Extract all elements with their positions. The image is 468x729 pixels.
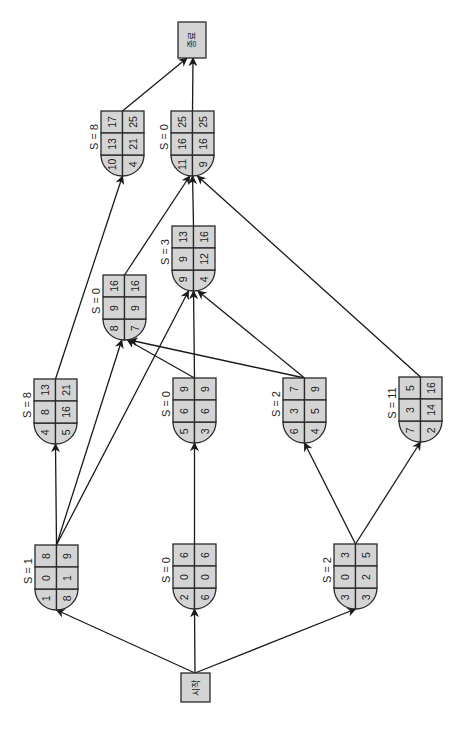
activity-node-g: 73521416S = 11	[386, 377, 442, 442]
edge-start-to-b	[195, 609, 196, 673]
activity-node-f: 637459S = 2	[270, 378, 326, 443]
slack-label: S = 0	[160, 391, 172, 417]
activity-node-k: 11162591625S = 0	[158, 111, 214, 176]
node-value: 3	[288, 408, 300, 414]
node-value: 3	[339, 594, 351, 600]
slack-label: S = 3	[159, 239, 171, 265]
node-value: 2	[360, 574, 372, 580]
node-value: 4	[198, 276, 210, 282]
node-value: 6	[199, 408, 211, 414]
node-value: 6	[178, 408, 190, 414]
node-value: 4	[39, 429, 51, 435]
slack-label: S = 11	[386, 387, 398, 418]
node-value: 9	[197, 161, 209, 167]
network-diagram: 108819S = 1206606S = 0303325S = 24813516…	[0, 0, 468, 729]
edge-f-to-h	[130, 340, 305, 378]
slack-label: S = 8	[88, 124, 100, 150]
activity-node-c: 303325S = 2	[321, 544, 377, 609]
end-label: 종료	[187, 32, 197, 48]
edge-e-to-i	[194, 291, 195, 378]
node-value: 9	[178, 386, 190, 392]
node-value: 0	[199, 574, 211, 580]
node-value: 16	[176, 138, 188, 150]
node-value: 2	[178, 594, 190, 600]
node-value: 6	[199, 552, 211, 558]
node-value: 13	[39, 384, 51, 396]
node-value: 4	[309, 428, 321, 434]
edge-i-to-k	[193, 176, 194, 226]
node-value: 16	[197, 138, 209, 150]
activity-node-h: 89167916S = 0	[90, 275, 146, 340]
node-value: 16	[129, 280, 141, 292]
node-value: 3	[339, 552, 351, 558]
slack-label: S = 1	[22, 558, 34, 584]
activity-node-e: 569369S = 0	[160, 378, 216, 443]
end-node: 종료	[178, 22, 206, 58]
node-value: 21	[60, 384, 72, 396]
edge-e-to-h	[127, 340, 194, 378]
node-value: 10	[106, 158, 118, 170]
node-value: 5	[360, 552, 372, 558]
node-value: 25	[197, 116, 209, 128]
node-value: 3	[404, 407, 416, 413]
node-value: 13	[106, 138, 118, 150]
node-value: 5	[309, 408, 321, 414]
node-value: 25	[176, 116, 188, 128]
node-value: 13	[177, 231, 189, 243]
node-value: 6	[288, 428, 300, 434]
edge-start-to-c	[195, 609, 356, 673]
node-value: 12	[198, 253, 210, 265]
activity-node-j: 10131742125S = 8	[88, 111, 144, 176]
edge-start-to-a	[57, 610, 196, 673]
node-value: 14	[425, 404, 437, 416]
edge-k-to-end	[193, 58, 194, 111]
node-value: 6	[178, 552, 190, 558]
node-value: 5	[404, 385, 416, 391]
node-value: 1	[40, 595, 52, 601]
edge-c-to-f	[305, 443, 356, 544]
node-value: 7	[288, 386, 300, 392]
slack-label: S = 2	[321, 557, 333, 583]
edge-a-to-h	[57, 340, 122, 545]
node-value: 8	[39, 409, 51, 415]
node-value: 17	[106, 116, 118, 128]
edge-f-to-i	[198, 291, 305, 378]
node-value: 7	[129, 325, 141, 331]
slack-label: S = 8	[21, 392, 33, 418]
node-value: 9	[309, 386, 321, 392]
node-value: 16	[60, 406, 72, 418]
start-node: 시작	[181, 673, 210, 702]
node-value: 0	[40, 575, 52, 581]
node-value: 0	[178, 574, 190, 580]
edge-c-to-g	[356, 442, 421, 544]
start-label: 시작	[191, 680, 201, 696]
node-value: 9	[108, 305, 120, 311]
node-value: 16	[425, 382, 437, 394]
activity-node-i: 991341216S = 3	[159, 226, 215, 291]
node-value: 21	[127, 138, 139, 150]
node-value: 7	[404, 427, 416, 433]
edge-j-to-end	[123, 58, 188, 111]
node-value: 16	[198, 231, 210, 243]
node-value: 25	[127, 116, 139, 128]
node-value: 3	[199, 428, 211, 434]
node-value: 3	[360, 594, 372, 600]
node-value: 5	[60, 429, 72, 435]
activity-node-b: 206606S = 0	[160, 544, 216, 609]
slack-label: S = 2	[270, 391, 282, 417]
node-value: 8	[61, 595, 73, 601]
node-value: 9	[61, 553, 73, 559]
slack-label: S = 0	[160, 557, 172, 583]
nodes-layer: 108819S = 1206606S = 0303325S = 24813516…	[21, 111, 442, 610]
node-value: 1	[61, 575, 73, 581]
node-value: 5	[178, 428, 190, 434]
node-value: 0	[339, 574, 351, 580]
node-value: 2	[425, 427, 437, 433]
node-value: 11	[176, 159, 188, 170]
edge-g-to-k	[198, 176, 421, 377]
node-value: 16	[108, 280, 120, 292]
node-value: 8	[108, 325, 120, 331]
node-value: 9	[177, 256, 189, 262]
slack-label: S = 0	[158, 124, 170, 150]
node-value: 9	[129, 305, 141, 311]
